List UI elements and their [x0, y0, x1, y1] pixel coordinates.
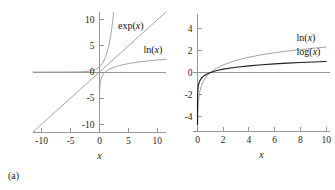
ytick-label-b-2: 0 — [188, 68, 193, 78]
xaxis-title-a: x — [96, 150, 102, 161]
ytick-label-a-3: -5 — [87, 93, 95, 103]
ytick-label-b-0: 4 — [188, 24, 193, 34]
curve-label-a-0: exp(x) — [118, 20, 144, 32]
ytick-label-a-4: -10 — [82, 120, 95, 130]
xtick-label-b-4: 8 — [298, 135, 303, 145]
curve-label-a-1: ln(x) — [143, 44, 162, 56]
curve-expx — [33, 12, 114, 72]
xtick-label-b-5: 10 — [321, 135, 331, 145]
xtick-label-a-4: 10 — [153, 136, 163, 146]
curve-lnx — [100, 59, 167, 132]
curve-label-b-1: log(x) — [297, 46, 321, 58]
curve-label-b-0: ln(x) — [297, 32, 316, 44]
xaxis-title-b: x — [258, 149, 264, 160]
xtick-label-b-0: 0 — [195, 135, 200, 145]
xtick-label-b-2: 4 — [247, 135, 252, 145]
ytick-label-b-1: 2 — [188, 46, 193, 56]
ytick-label-a-0: 10 — [85, 15, 95, 25]
xtick-label-b-3: 6 — [272, 135, 277, 145]
xtick-label-b-1: 2 — [221, 135, 226, 145]
ytick-label-a-1: 5 — [90, 41, 95, 51]
xtick-label-a-2: 0 — [97, 136, 102, 146]
xtick-label-a-1: -5 — [67, 136, 75, 146]
ytick-label-b-3: -2 — [185, 90, 193, 100]
panel-a-caption: (a) — [8, 170, 19, 181]
ytick-label-b-4: -4 — [185, 112, 193, 122]
curve-logx — [198, 61, 327, 124]
curve-lnx — [198, 47, 327, 131]
plot-panel-b: 0246810420-2-4xln(x)log(x) (b) — [167, 0, 335, 190]
figure-container: -10-505101050-5-10xexp(x)ln(x) (a) 02468… — [0, 0, 335, 190]
ytick-label-a-2: 0 — [90, 67, 95, 77]
plot-panel-a: -10-505101050-5-10xexp(x)ln(x) (a) — [0, 0, 168, 190]
xtick-label-a-3: 5 — [126, 136, 131, 146]
xtick-label-a-0: -10 — [35, 136, 48, 146]
plot-b-svg: 0246810420-2-4xln(x)log(x) — [167, 0, 335, 168]
plot-a-svg: -10-505101050-5-10xexp(x)ln(x) — [0, 0, 168, 168]
